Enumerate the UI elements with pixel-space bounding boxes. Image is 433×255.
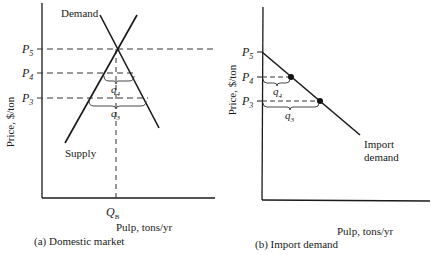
p3-point — [317, 98, 323, 104]
caption-a: (a) Domestic market — [34, 235, 124, 248]
p4-label: P4 — [21, 66, 33, 82]
supply-curve — [65, 15, 137, 143]
qb-label: QB — [106, 205, 120, 221]
p5-label: P5 — [21, 42, 33, 58]
import-demand-label-2: demand — [364, 151, 399, 163]
x-axis-label-b: Pulp, tons/yr — [337, 225, 394, 237]
p3-label: P3 — [241, 94, 253, 110]
p4-point — [288, 74, 294, 80]
y-axis-label-a: Price, $/ton — [4, 96, 16, 147]
panel-import-demand: P5 P4 P3 q4 q3 Import demand Pulp, tons/… — [226, 7, 430, 251]
p4-label: P4 — [241, 70, 253, 86]
caption-b: (b) Import demand — [255, 238, 339, 251]
p3-label: P3 — [21, 91, 33, 107]
q4-label: q4 — [111, 83, 121, 98]
y-axis-label-b: Price, $/ton — [226, 64, 238, 115]
q4-brace — [104, 76, 134, 84]
x-axis-label-a: Pulp, tons/yr — [116, 221, 173, 233]
demand-label: Demand — [61, 7, 99, 19]
q3-brace — [89, 101, 146, 109]
p5-label: P5 — [241, 45, 253, 61]
demand-curve — [100, 15, 159, 128]
panel-domestic-market: Demand Supply P5 P4 P3 q4 q3 QB Pulp, to… — [4, 3, 215, 248]
supply-label: Supply — [65, 147, 97, 159]
import-demand-label-1: Import — [364, 138, 394, 150]
x-axis — [262, 200, 430, 201]
q3-label: q3 — [111, 107, 121, 122]
diagram-canvas: Demand Supply P5 P4 P3 q4 q3 QB Pulp, to… — [0, 0, 433, 255]
q3-brace — [263, 103, 319, 110]
q3-label: q3 — [285, 109, 295, 124]
q4-label: q4 — [273, 85, 283, 100]
